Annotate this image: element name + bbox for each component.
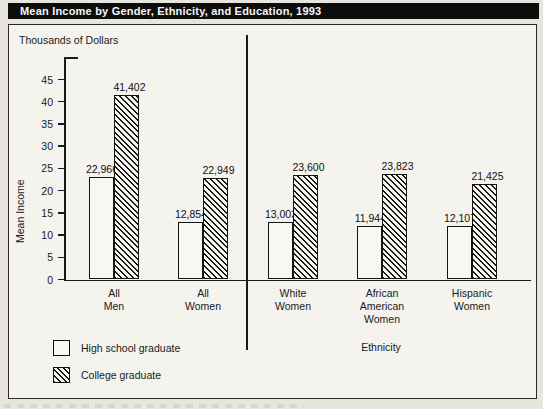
y-tick bbox=[58, 212, 64, 214]
legend: High school graduate College graduate bbox=[53, 339, 180, 393]
bar-college-hispanic-women bbox=[472, 184, 497, 279]
bar-value-label: 11,944 bbox=[326, 212, 386, 224]
y-tick bbox=[58, 234, 64, 236]
category-label: African American Women bbox=[336, 287, 428, 326]
bar-value-label: 12,854 bbox=[147, 208, 207, 220]
bar-value-label: 23,823 bbox=[368, 160, 428, 172]
y-tick-label: 40 bbox=[23, 96, 53, 108]
y-tick-label: 10 bbox=[23, 229, 53, 241]
bar-high-school-all-men bbox=[89, 177, 114, 279]
category-label: White Women bbox=[247, 287, 339, 313]
bar-value-label: 41,402 bbox=[100, 81, 160, 93]
bar-high-school-hispanic-women bbox=[447, 226, 472, 280]
y-tick-label: 0 bbox=[23, 274, 53, 286]
chart-area: Thousands of Dollars Mean Income 0510152… bbox=[8, 24, 537, 399]
category-label: All Men bbox=[68, 287, 160, 313]
bar-high-school-african-american-women bbox=[357, 226, 382, 279]
bar-value-label: 13,003 bbox=[237, 208, 297, 220]
bar-value-label: 22,949 bbox=[189, 164, 249, 176]
cut-off-caption-artifact bbox=[4, 404, 304, 408]
y-tick-label: 25 bbox=[23, 162, 53, 174]
legend-label-high-school: High school graduate bbox=[81, 342, 180, 354]
category-label: Hispanic Women bbox=[426, 287, 518, 313]
bar-college-all-men bbox=[114, 95, 139, 279]
y-tick-label: 20 bbox=[23, 185, 53, 197]
y-tick bbox=[58, 190, 64, 192]
title-bar: Mean Income by Gender, Ethnicity, and Ed… bbox=[8, 3, 539, 19]
legend-label-college: College graduate bbox=[81, 369, 161, 381]
bar-value-label: 23,600 bbox=[279, 161, 339, 173]
legend-item-high-school: High school graduate bbox=[53, 339, 180, 356]
y-tick-label: 30 bbox=[23, 140, 53, 152]
bar-value-label: 12,107 bbox=[416, 212, 476, 224]
ethnicity-axis-label: Ethnicity bbox=[341, 341, 421, 353]
chart-title: Mean Income by Gender, Ethnicity, and Ed… bbox=[20, 5, 321, 17]
y-tick-label: 5 bbox=[23, 251, 53, 263]
high-school-swatch-icon bbox=[53, 340, 70, 356]
y-tick-label: 35 bbox=[23, 118, 53, 130]
bar-college-all-women bbox=[203, 178, 228, 280]
y-tick bbox=[58, 123, 64, 125]
y-tick bbox=[58, 101, 64, 103]
y-tick bbox=[58, 257, 64, 259]
bar-high-school-white-women bbox=[268, 222, 293, 280]
bar-college-white-women bbox=[293, 175, 318, 280]
y-tick bbox=[58, 79, 64, 81]
y-tick-label: 45 bbox=[23, 74, 53, 86]
bar-value-label: 22,966 bbox=[58, 163, 118, 175]
bar-high-school-all-women bbox=[178, 222, 203, 279]
category-label: All Women bbox=[157, 287, 249, 313]
legend-item-college: College graduate bbox=[53, 366, 180, 383]
y-tick bbox=[58, 279, 64, 281]
college-swatch-icon bbox=[53, 367, 70, 383]
y-tick bbox=[58, 145, 64, 147]
y-tick-label: 15 bbox=[23, 207, 53, 219]
bar-value-label: 21,425 bbox=[458, 170, 518, 182]
bar-college-african-american-women bbox=[382, 174, 407, 280]
